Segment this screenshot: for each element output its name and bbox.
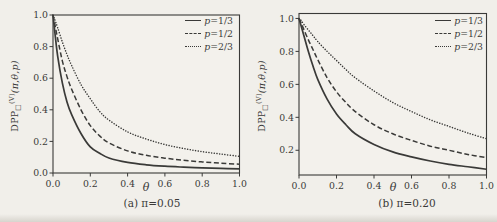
- x-tick-label: 0.4: [120, 178, 135, 189]
- legend-entry-p-1-2: p=1/2: [141, 27, 233, 40]
- y-tick-label: 0.2: [279, 144, 294, 155]
- legend-label: p=1/2: [454, 28, 483, 39]
- dashed-line-sample: [435, 33, 451, 34]
- ylabel-subscript: □: [14, 104, 22, 111]
- dashed-line-sample: [185, 33, 201, 34]
- ylabel-superscript: (V): [255, 93, 263, 104]
- x-tick-label: 1.0: [232, 178, 247, 189]
- x-tick-label: 0.0: [46, 178, 61, 189]
- caption-a: (a) π=0.05: [87, 197, 217, 209]
- dotted-line-sample: [185, 46, 201, 47]
- legend-entry-p-1-3: p=1/3: [391, 14, 483, 27]
- solid-line-sample: [185, 20, 201, 21]
- caption-b: (b) π=0.20: [342, 197, 472, 209]
- legend-entry-p-1-3: p=1/3: [141, 14, 233, 27]
- x-tick-label: 0.4: [367, 180, 382, 191]
- y-axis-label-b: DPP□(V)(π,θ,p): [255, 40, 271, 152]
- legend-entry-p-1-2: p=1/2: [391, 27, 483, 40]
- legend-label: p=2/3: [204, 41, 233, 52]
- x-axis-label-b: θ: [381, 181, 405, 194]
- ylabel-superscript: (V): [8, 93, 16, 104]
- x-tick-label: 0.6: [158, 178, 173, 189]
- x-tick-label: 1.0: [479, 180, 494, 191]
- legend-entry-p-2-3: p=2/3: [391, 40, 483, 53]
- x-tick-label: 0.2: [329, 180, 344, 191]
- legend-label: p=2/3: [454, 41, 483, 52]
- y-tick-label: 0.0: [33, 167, 48, 178]
- x-tick-label: 0.2: [83, 178, 98, 189]
- legend-entry-p-2-3: p=2/3: [141, 40, 233, 53]
- x-axis-label-a: θ: [134, 181, 158, 194]
- legend-b: p=1/3 p=1/2 p=2/3: [391, 14, 483, 54]
- y-axis-label-a: DPP□(V)(π,θ,p): [8, 40, 24, 152]
- x-tick-label: 0.8: [195, 178, 210, 189]
- ylabel-subscript: □: [261, 104, 269, 111]
- legend-label: p=1/2: [204, 28, 233, 39]
- y-tick-label: 0.6: [279, 79, 294, 90]
- y-tick-label: 0.4: [279, 112, 294, 123]
- x-tick-label: 0.6: [404, 180, 419, 191]
- solid-line-sample: [435, 20, 451, 21]
- y-tick-label: 0.6: [33, 72, 48, 83]
- y-tick-label: 0.2: [33, 136, 48, 147]
- figure-page: 0.00.20.40.60.81.00.00.20.40.60.81.0 0.0…: [0, 0, 497, 222]
- x-tick-label: 0.8: [442, 180, 457, 191]
- y-tick-label: 0.4: [33, 104, 48, 115]
- ylabel-base: DPP: [256, 111, 267, 132]
- dotted-line-sample: [435, 46, 451, 47]
- legend-label: p=1/3: [204, 15, 233, 26]
- y-tick-label: 1.0: [33, 9, 48, 20]
- y-tick-label: 0.8: [33, 41, 48, 52]
- legend-a: p=1/3 p=1/2 p=2/3: [141, 14, 233, 54]
- legend-label: p=1/3: [454, 15, 483, 26]
- y-tick-label: 1.0: [279, 13, 294, 24]
- ylabel-args: (π,θ,p): [9, 60, 20, 93]
- ylabel-args: (π,θ,p): [256, 60, 267, 93]
- ylabel-base: DPP: [9, 111, 20, 132]
- x-tick-label: 0.0: [292, 180, 307, 191]
- y-tick-label: 0.8: [279, 46, 294, 57]
